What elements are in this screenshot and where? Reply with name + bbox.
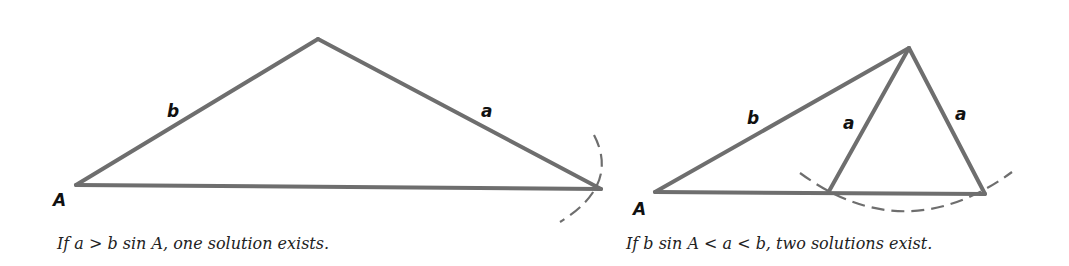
caption-one-solution: If a > b sin A, one solution exists. (57, 234, 329, 253)
caption-two-solutions: If b sin A < a < b, two solutions exist. (626, 234, 932, 253)
side-c-left (76, 185, 601, 189)
side-label-b-right: b (747, 108, 759, 128)
side-b-left (76, 39, 318, 185)
side-label-a-left: a (481, 101, 492, 121)
vertex-label-A-left: A (51, 190, 66, 210)
triangle-diagram: A b a A b a a (0, 0, 1069, 266)
side-a-left (318, 39, 601, 189)
vertex-label-A-right: A (631, 199, 646, 219)
side-c-right (655, 192, 985, 194)
side-label-a-outer-right: a (955, 104, 966, 124)
figure-two-solutions: A b a a (631, 48, 1012, 219)
figure-one-solution: A b a (51, 39, 602, 222)
side-label-a-inner-right: a (843, 113, 854, 133)
side-label-b-left: b (167, 101, 179, 121)
side-a-outer-right (909, 48, 985, 194)
